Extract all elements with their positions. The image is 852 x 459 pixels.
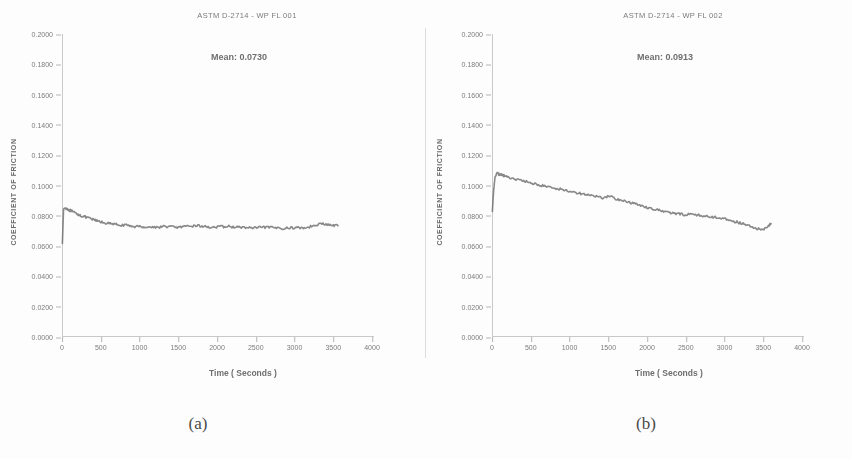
figure-container: ASTM D-2714 - WP FL 001 Mean: 0.0730 COE… xyxy=(0,0,852,459)
data-trace-b xyxy=(492,34,802,337)
x-tick-label: 0 xyxy=(490,344,494,351)
x-tick-label: 500 xyxy=(525,344,537,351)
y-tick-label: 0.0000 xyxy=(462,334,492,341)
y-tick-label: 0.1400 xyxy=(32,121,62,128)
y-tick-label: 0.1800 xyxy=(32,61,62,68)
y-tick-label: 0.1000 xyxy=(32,182,62,189)
x-tick-label: 1000 xyxy=(562,344,578,351)
chart-panel-b: ASTM D-2714 - WP FL 002 Mean: 0.0913 COE… xyxy=(426,0,852,405)
y-tick-label: 0.1600 xyxy=(32,91,62,98)
y-tick-label: 0.1000 xyxy=(462,182,492,189)
y-tick-label: 0.1600 xyxy=(462,91,492,98)
plot-area-b: 0.00000.02000.04000.06000.08000.10000.12… xyxy=(492,34,802,337)
y-axis-label-a: COEFFICIENT OF FRICTION xyxy=(10,122,17,262)
y-tick-label: 0.0000 xyxy=(32,334,62,341)
y-tick-label: 0.1200 xyxy=(32,152,62,159)
x-tick-label: 3000 xyxy=(717,344,733,351)
y-tick-label: 0.1800 xyxy=(462,61,492,68)
y-tick-label: 0.0800 xyxy=(32,212,62,219)
x-tick-label: 1500 xyxy=(170,344,186,351)
chart-panel-a: ASTM D-2714 - WP FL 001 Mean: 0.0730 COE… xyxy=(0,0,426,405)
x-tick-label: 2000 xyxy=(209,344,225,351)
y-tick-label: 0.1200 xyxy=(462,152,492,159)
y-tick-label: 0.1400 xyxy=(462,121,492,128)
y-tick-label: 0.0200 xyxy=(462,303,492,310)
x-tick-label: 3000 xyxy=(287,344,303,351)
y-axis-label-b: COEFFICIENT OF FRICTION xyxy=(436,122,443,262)
subfigure-caption-a: (a) xyxy=(0,414,411,434)
x-tick-label: 500 xyxy=(95,344,107,351)
y-tick-label: 0.2000 xyxy=(32,31,62,38)
y-tick-label: 0.0400 xyxy=(462,273,492,280)
x-tick-label: 2000 xyxy=(639,344,655,351)
y-tick-label: 0.0800 xyxy=(462,212,492,219)
x-tick-label: 2500 xyxy=(678,344,694,351)
y-tick-label: 0.0600 xyxy=(462,243,492,250)
plot-area-a: 0.00000.02000.04000.06000.08000.10000.12… xyxy=(62,34,372,337)
x-tick-label: 3500 xyxy=(755,344,771,351)
chart-title-a: ASTM D-2714 - WP FL 001 xyxy=(34,11,460,20)
x-tick-label: 1500 xyxy=(600,344,616,351)
x-tick-label: 4000 xyxy=(794,344,810,351)
y-tick-label: 0.0200 xyxy=(32,303,62,310)
x-tick-label: 0 xyxy=(60,344,64,351)
x-tick-label: 2500 xyxy=(248,344,264,351)
y-tick-label: 0.0400 xyxy=(32,273,62,280)
x-axis-label-a: Time ( Seconds ) xyxy=(30,368,456,378)
subfigure-caption-b: (b) xyxy=(433,414,852,434)
x-tick-label: 1000 xyxy=(132,344,148,351)
x-tick-label: 3500 xyxy=(325,344,341,351)
y-tick-label: 0.2000 xyxy=(462,31,492,38)
x-axis-label-b: Time ( Seconds ) xyxy=(456,368,852,378)
chart-title-b: ASTM D-2714 - WP FL 002 xyxy=(460,11,852,20)
data-trace-a xyxy=(62,34,372,337)
x-tick-label: 4000 xyxy=(364,344,380,351)
y-tick-label: 0.0600 xyxy=(32,243,62,250)
